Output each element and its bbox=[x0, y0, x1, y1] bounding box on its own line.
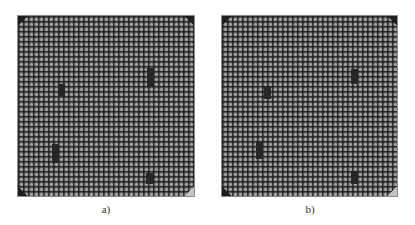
missing-pin-region bbox=[264, 86, 271, 99]
missing-pin-region bbox=[256, 142, 263, 159]
pin-grid-array-image-a bbox=[17, 15, 195, 197]
corner-marker-bottom-left bbox=[222, 187, 231, 196]
corner-marker-top-right bbox=[185, 16, 194, 25]
grid-lines bbox=[18, 16, 194, 196]
pin1-indicator-triangle bbox=[388, 187, 397, 196]
missing-pin-region bbox=[52, 144, 59, 163]
missing-pin-region bbox=[58, 84, 65, 97]
corner-marker-top-right bbox=[388, 16, 397, 25]
caption-b: b) bbox=[290, 203, 330, 215]
pin-grid-array-image-b bbox=[221, 15, 398, 197]
pin1-indicator-triangle bbox=[185, 187, 194, 196]
corner-marker-bottom-left bbox=[18, 187, 27, 196]
corner-marker-top-left bbox=[18, 16, 27, 25]
missing-pin-region bbox=[351, 171, 358, 184]
caption-a: a) bbox=[86, 203, 126, 215]
corner-marker-top-left bbox=[222, 16, 231, 25]
missing-pin-region bbox=[146, 173, 153, 184]
grid-lines bbox=[222, 16, 397, 196]
missing-pin-region bbox=[351, 69, 358, 84]
missing-pin-region bbox=[147, 68, 154, 86]
